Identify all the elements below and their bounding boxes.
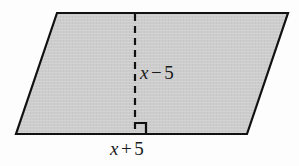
base-label: x+5: [110, 138, 144, 160]
geometry-figure: x−5 x+5: [0, 0, 299, 166]
height-label-variable: x: [140, 62, 149, 83]
height-label-constant: 5: [164, 62, 174, 83]
base-label-constant: 5: [134, 138, 144, 159]
base-label-variable: x: [110, 138, 119, 159]
height-label: x−5: [140, 62, 174, 84]
base-label-operator: +: [119, 138, 134, 159]
height-label-operator: −: [149, 62, 164, 83]
